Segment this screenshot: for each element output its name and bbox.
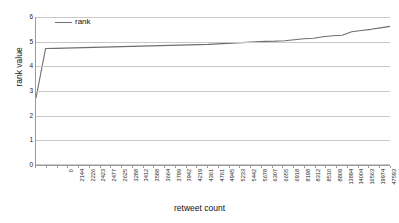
- x-axis-tickmark: [78, 166, 79, 168]
- x-axis-tickmark: [186, 166, 187, 168]
- x-axis-tick-8809: 8809: [337, 169, 343, 203]
- y-axis-tick-2: 2: [19, 113, 33, 120]
- x-axis-tick-3288: 3288: [133, 169, 139, 203]
- gridline-3: [36, 91, 390, 92]
- x-axis-tick-2625: 2625: [122, 169, 128, 203]
- x-axis-tickmark: [143, 166, 144, 168]
- chart-legend: rank: [55, 18, 91, 26]
- x-axis-tickmark: [57, 166, 58, 168]
- gridline-2: [36, 116, 390, 117]
- y-axis-tick-0: 0: [19, 162, 33, 169]
- x-axis-tickmark: [175, 166, 176, 168]
- y-axis-tick-1: 1: [19, 137, 33, 144]
- x-axis-tick-2226: 2226: [90, 169, 96, 203]
- x-axis-tick-4361: 4361: [208, 169, 214, 203]
- x-axis-tickmark: [325, 166, 326, 168]
- y-axis-tick-5: 5: [19, 39, 33, 46]
- x-axis-tick-8510: 8510: [326, 169, 332, 203]
- x-axis-tickmark: [368, 166, 369, 168]
- x-axis-tickmark: [347, 166, 348, 168]
- x-axis-tickmark: [153, 166, 154, 168]
- x-axis-tickmark: [89, 166, 90, 168]
- x-axis-tick-8312: 8312: [315, 169, 321, 203]
- x-axis-tick-6918: 6918: [294, 169, 300, 203]
- x-axis-tick-0: 0: [68, 169, 74, 203]
- legend-line-swatch: [55, 22, 72, 23]
- legend-label-rank: rank: [75, 18, 91, 26]
- x-axis-tick-14004: 14004: [358, 169, 364, 203]
- x-axis-tickmark: [132, 166, 133, 168]
- x-axis-tick-19974: 19974: [380, 169, 386, 203]
- x-axis-tickmark: [121, 166, 122, 168]
- x-axis-tickmark: [100, 166, 101, 168]
- x-axis-tickmark: [218, 166, 219, 168]
- x-axis-tick-8198: 8198: [305, 169, 311, 203]
- x-axis-tickmark: [35, 166, 36, 168]
- x-axis-tick-3588: 3588: [154, 169, 160, 203]
- y-axis-tick-labels: 0123456: [19, 12, 33, 169]
- x-axis-tickmark: [282, 166, 283, 168]
- x-axis-tickmark: [304, 166, 305, 168]
- x-axis-tickmark: [272, 166, 273, 168]
- x-axis-tick-labels: 0214422262423247726253288341235883664379…: [35, 166, 390, 202]
- x-axis-tick-6307: 6307: [272, 169, 278, 203]
- x-axis-tickmark: [196, 166, 197, 168]
- x-axis-tickmark: [67, 166, 68, 168]
- y-axis-tick-4: 4: [19, 63, 33, 70]
- x-axis-tick-13894: 13894: [348, 169, 354, 203]
- x-axis-tick-3799: 3799: [176, 169, 182, 203]
- x-axis-tickmark: [46, 166, 47, 168]
- gridline-1: [36, 140, 390, 141]
- y-axis-tick-6: 6: [19, 14, 33, 21]
- x-axis-tickmark: [207, 166, 208, 168]
- x-axis-tick-4761: 4761: [219, 169, 225, 203]
- plot-area: [35, 17, 390, 165]
- x-axis-tickmark: [229, 166, 230, 168]
- x-axis-tick-47593: 47593: [391, 169, 397, 203]
- x-axis-tickmark: [261, 166, 262, 168]
- x-axis-tick-3412: 3412: [143, 169, 149, 203]
- x-axis-tick-6655: 6655: [283, 169, 289, 203]
- line-chart: rank value 0123456 rank 0214422262423247…: [0, 0, 399, 223]
- x-axis-tick-2423: 2423: [100, 169, 106, 203]
- y-axis-tick-3: 3: [19, 88, 33, 95]
- x-axis-tick-16563: 16563: [369, 169, 375, 203]
- x-axis-tick-5233: 5233: [240, 169, 246, 203]
- x-axis-tick-2477: 2477: [111, 169, 117, 203]
- x-axis-tick-3664: 3664: [165, 169, 171, 203]
- x-axis-tickmark: [293, 166, 294, 168]
- x-axis-tick-3942: 3942: [186, 169, 192, 203]
- x-axis-tickmark: [358, 166, 359, 168]
- x-axis-tickmark: [239, 166, 240, 168]
- x-axis-tick-2144: 2144: [79, 169, 85, 203]
- x-axis-tickmark: [390, 166, 391, 168]
- x-axis-tickmark: [164, 166, 165, 168]
- x-axis-tick-5442: 5442: [251, 169, 257, 203]
- x-axis-tickmark: [336, 166, 337, 168]
- gridline-4: [36, 66, 390, 67]
- x-axis-tickmark: [250, 166, 251, 168]
- gridline-5: [36, 42, 390, 43]
- x-axis-tick-4945: 4945: [229, 169, 235, 203]
- x-axis-tickmark: [315, 166, 316, 168]
- x-axis-tickmark: [379, 166, 380, 168]
- x-axis-tick-5678: 5678: [262, 169, 268, 203]
- x-axis-title: retweet count: [0, 203, 399, 213]
- x-axis-tick-4219: 4219: [197, 169, 203, 203]
- x-axis-tickmark: [110, 166, 111, 168]
